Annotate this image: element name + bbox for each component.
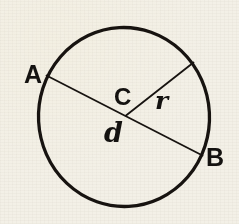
label-point-b: B: [206, 145, 224, 170]
label-point-a: A: [24, 62, 42, 87]
circle-outline: [34, 23, 214, 211]
label-center-c: C: [114, 85, 131, 109]
label-radius-r: r: [155, 88, 168, 113]
circle-diagram-canvas: [0, 0, 239, 224]
label-diameter-d: d: [104, 119, 123, 146]
circle-diagram-figure: A C r d B: [0, 0, 239, 224]
